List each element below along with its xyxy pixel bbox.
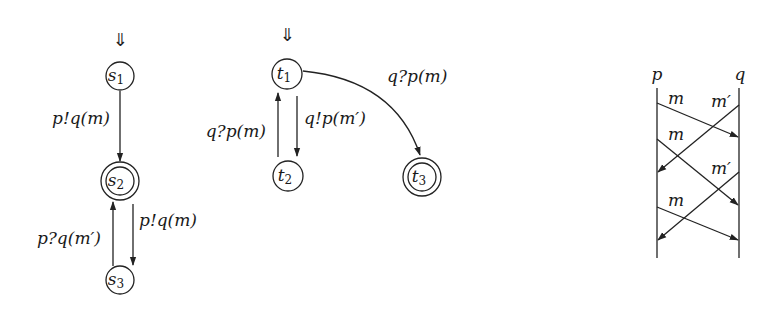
state-s1-name: s (108, 65, 117, 85)
message-5-label: m (668, 190, 684, 210)
state-s2-name: s (108, 170, 117, 190)
edge-label-s1-s2: p!q(m) (52, 108, 110, 128)
process-label-p: p (652, 64, 663, 84)
state-t2-sub: 2 (285, 173, 293, 187)
message-5 (657, 207, 738, 240)
state-s3-sub: 3 (117, 277, 125, 291)
diagram-canvas: ⇓ s1 s2 s3 p!q(m) p!q(m) p?q(m′) ⇓ t1 (0, 0, 774, 309)
state-s3: s3 (106, 266, 134, 294)
state-t2: t2 (273, 161, 303, 191)
message-sequence-chart: p q m m′ m m′ m (652, 64, 746, 258)
message-4-label: m′ (711, 158, 731, 178)
state-t3-accepting: t3 (403, 158, 441, 196)
edge-label-s2-s3: p!q(m) (139, 210, 197, 230)
edge-label-t2-t1: q?p(m) (206, 121, 266, 141)
state-t1-sub: 1 (284, 71, 292, 85)
automaton-s: ⇓ s1 s2 s3 p!q(m) p!q(m) p?q(m′) (37, 29, 197, 294)
state-s1-sub: 1 (117, 73, 125, 87)
initial-state-marker-s: ⇓ (112, 29, 127, 50)
initial-state-marker-t: ⇓ (279, 24, 294, 45)
message-2-label: m′ (711, 91, 731, 111)
state-t1: t1 (272, 59, 302, 89)
message-3-label: m (668, 124, 684, 144)
edge-label-t1-t2: q!p(m′) (304, 108, 366, 128)
edge-label-s3-s2: p?q(m′) (37, 228, 101, 248)
state-t3-sub: 3 (419, 174, 427, 188)
state-s2-sub: 2 (117, 178, 125, 192)
state-s3-name: s (108, 269, 117, 289)
edge-label-t1-t3: q?p(m) (387, 66, 447, 86)
state-s2-accepting: s2 (101, 162, 139, 200)
state-s1: s1 (106, 62, 134, 90)
message-1-label: m (668, 88, 684, 108)
automaton-t: ⇓ t1 t2 t3 q!p(m′) q?p(m) q?p(m) (206, 24, 448, 196)
process-label-q: q (735, 64, 746, 84)
